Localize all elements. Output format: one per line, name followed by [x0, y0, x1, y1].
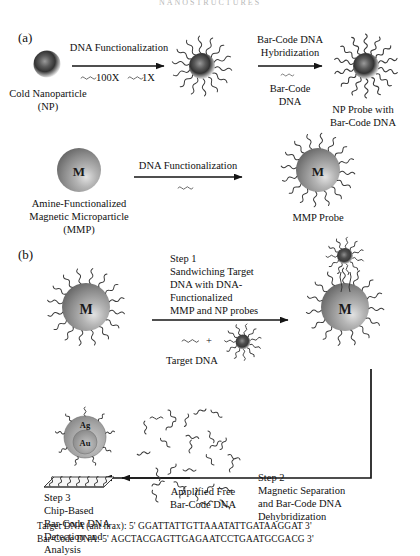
arrow1-label-100x: 100X	[96, 72, 119, 84]
step2-line3: and Bar-Code DNA	[258, 498, 342, 510]
arrow3-label-above: DNA Functionalization	[139, 160, 237, 172]
mmp-caption-3: (MMP)	[63, 224, 95, 236]
arrow2-label-above-1: Bar-Code DNA	[257, 34, 323, 46]
panel-label-b: (b)	[18, 248, 33, 263]
target-dna-strand-icon	[182, 340, 199, 343]
reagent-plus-sign: +	[206, 335, 212, 347]
dna-strand-mmp-icon	[178, 187, 193, 189]
svg-text:M: M	[73, 164, 85, 179]
step1-line2: Sandwiching Target	[170, 266, 254, 278]
cold-nanoparticle-sphere	[34, 51, 61, 78]
step3-line1: Step 3	[44, 492, 71, 504]
arrow1-label-above: DNA Functionalization	[70, 42, 168, 54]
step1-line5: MMP and NP probes	[170, 305, 258, 317]
svg-text:Au: Au	[80, 438, 91, 448]
step1-line4: Functionalized	[170, 292, 232, 304]
ag-au-core-shell-particle: Ag Au	[64, 416, 106, 458]
cold-nanoparticle-caption-2: (NP)	[38, 101, 58, 113]
svg-text:Ag: Ag	[80, 420, 91, 430]
np-probe-caption-1: NP Probe with	[332, 104, 393, 116]
step1-line1: Step 1	[170, 253, 197, 265]
step2-line1: Step 2	[258, 472, 285, 484]
sequence-barcode-dna: Bar-Code DNA: 5' AGCTACGAGTTGAGAATCCTGAA…	[37, 534, 314, 545]
dna-strand-barcode-icon	[281, 74, 294, 76]
mmp-caption-2: Magnetic Microparticle	[29, 211, 128, 223]
svg-text:M: M	[338, 302, 351, 317]
svg-text:M: M	[312, 164, 324, 179]
svg-text:M: M	[79, 302, 92, 317]
arrow2-label-below-1: Bar-Code	[270, 83, 311, 95]
step2-line2: Magnetic Separation	[258, 485, 345, 497]
free-barcode-line2: Bar-Code DNA	[170, 499, 236, 511]
panel-label-a: (a)	[18, 31, 32, 46]
step1-line3: DNA with DNA-	[170, 279, 242, 291]
arrow1-label-1x: 1X	[142, 72, 155, 84]
cold-nanoparticle-caption-1: Cold Nanoparticle	[9, 88, 86, 100]
sequence-target-dna: Target DNA (ant hrax): 5' GGATTATTGTTAAA…	[37, 521, 312, 532]
arrow2-label-below-2: DNA	[279, 96, 302, 108]
target-dna-label: Target DNA	[166, 355, 218, 367]
dna-strand-1x-icon	[128, 77, 143, 79]
step3-line5: Analysis	[44, 544, 81, 556]
dna-strand-100x-icon	[81, 77, 96, 79]
mmp-probe-caption: MMP Probe	[292, 212, 343, 224]
arrow2-label-above-2: Hybridization	[261, 47, 319, 59]
np-probe-with-barcode	[353, 53, 379, 79]
np-probe-caption-2: Bar-Code DNA	[330, 117, 396, 129]
mmp-probe-panelb-sphere: M	[62, 283, 110, 331]
mmp-caption-1: Amine-Functionalized	[32, 198, 126, 210]
amine-functionalized-mmp-sphere: M	[57, 148, 101, 192]
free-barcode-line1: Amplified Free	[171, 486, 235, 498]
step3-line2: Chip-Based	[44, 505, 94, 517]
mmp-probe-sphere: M	[296, 148, 340, 192]
